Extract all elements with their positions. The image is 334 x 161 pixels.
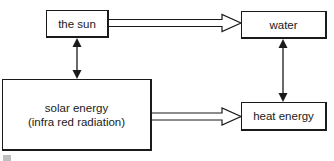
hollow-arrow-solar-to-heat <box>151 108 241 125</box>
node-label: the sun <box>58 17 96 31</box>
node-label: water <box>269 18 297 32</box>
double-arrow-sun-solar <box>73 38 82 79</box>
node-heat-energy: heat energy <box>241 102 327 131</box>
hollow-arrow-sun-to-water <box>108 15 241 32</box>
node-label-line-1: solar energy <box>45 101 108 115</box>
node-water: water <box>241 11 327 39</box>
double-arrow-water-heat <box>279 39 288 102</box>
node-label-line-2: (infra red radiation) <box>28 115 125 129</box>
node-label: heat energy <box>253 109 314 123</box>
node-the-sun: the sun <box>46 10 109 38</box>
cropped-text-fragment <box>3 155 11 161</box>
node-solar-energy: solar energy (infra red radiation) <box>2 79 152 151</box>
